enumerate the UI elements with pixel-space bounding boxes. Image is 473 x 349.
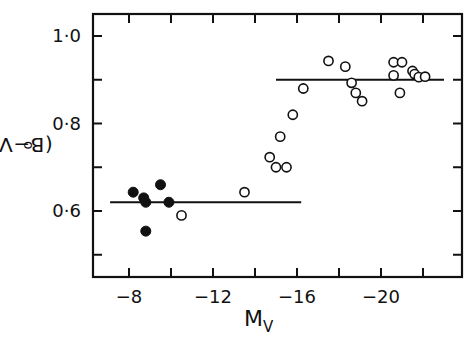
open-data-point: [347, 78, 356, 87]
open-data-point: [282, 163, 291, 172]
open-data-point: [299, 84, 308, 93]
x-axis-label: MV: [244, 306, 273, 336]
x-axis-label-sub: V: [263, 318, 273, 336]
svg-text:−8: −8: [116, 286, 143, 307]
open-data-point: [397, 58, 406, 67]
filled-data-point: [128, 187, 138, 197]
data-points: [128, 56, 430, 236]
filled-data-point: [164, 197, 174, 207]
open-data-point: [271, 163, 280, 172]
svg-text:1·0: 1·0: [52, 25, 81, 46]
svg-text:0·6: 0·6: [52, 200, 81, 221]
axis-ticks: [93, 14, 462, 277]
filled-data-point: [156, 180, 166, 190]
y-axis-label: (B−V)o: [6, 90, 36, 200]
filled-data-point: [141, 226, 151, 236]
open-data-point: [324, 56, 333, 65]
svg-text:0·8: 0·8: [52, 113, 81, 134]
open-data-point: [389, 71, 398, 80]
scatter-chart: −8−12−16−200·60·81·0: [0, 0, 473, 349]
y-axis-label-main: (B−V): [0, 133, 52, 157]
open-data-point: [240, 188, 249, 197]
open-data-point: [421, 72, 430, 81]
open-data-point: [265, 153, 274, 162]
open-data-point: [288, 110, 297, 119]
open-data-point: [341, 62, 350, 71]
plot-frame: [93, 14, 462, 277]
open-data-point: [358, 97, 367, 106]
x-axis-label-main: M: [244, 306, 263, 331]
open-data-point: [276, 132, 285, 141]
open-data-point: [395, 88, 404, 97]
svg-text:−16: −16: [278, 286, 316, 307]
filled-data-point: [141, 197, 151, 207]
open-data-point: [351, 88, 360, 97]
svg-text:−12: −12: [194, 286, 232, 307]
svg-text:−20: −20: [362, 286, 400, 307]
open-data-point: [177, 211, 186, 220]
